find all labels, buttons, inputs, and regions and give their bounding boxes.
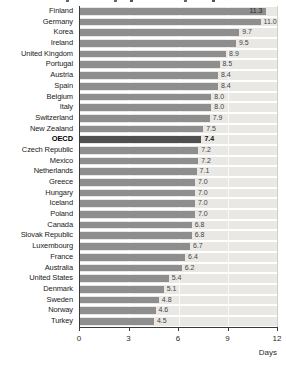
category-label: Denmark xyxy=(0,284,73,295)
value-label: 8.0 xyxy=(214,103,224,112)
bar-row: 8.4 xyxy=(80,81,277,92)
plot-right-border xyxy=(277,6,278,327)
bar xyxy=(80,243,190,250)
category-label: Italy xyxy=(0,102,73,113)
category-label: Netherlands xyxy=(0,166,73,177)
x-tick-label: 12 xyxy=(266,334,286,344)
bar xyxy=(80,190,195,197)
bar-row: 5.4 xyxy=(80,273,277,284)
bar xyxy=(80,297,159,304)
category-label: United States xyxy=(0,273,73,284)
bar xyxy=(80,158,198,165)
category-label: Iceland xyxy=(0,198,73,209)
x-tick-mark xyxy=(178,328,179,331)
x-tick-mark xyxy=(277,328,278,331)
value-label: 6.2 xyxy=(185,264,195,273)
bar xyxy=(80,200,195,207)
value-label: 8.9 xyxy=(229,50,239,59)
bar xyxy=(80,115,210,122)
category-labels: FinlandGermanyKoreaIrelandUnited Kingdom… xyxy=(0,6,73,327)
bar xyxy=(80,61,220,68)
bar xyxy=(80,19,261,26)
bar-chart: FinlandGermanyKoreaIrelandUnited Kingdom… xyxy=(0,0,286,367)
bar xyxy=(80,94,211,101)
bar xyxy=(80,232,192,239)
bar-row: 7.9 xyxy=(80,113,277,124)
value-label: 4.8 xyxy=(162,296,172,305)
bar-row: 4.5 xyxy=(80,316,277,327)
bar xyxy=(80,265,182,272)
category-label: Norway xyxy=(0,305,73,316)
category-label: Slovak Republic xyxy=(0,230,73,241)
category-label: Greece xyxy=(0,177,73,188)
bar xyxy=(80,307,156,314)
bar-row: 8.5 xyxy=(80,59,277,70)
category-label: Switzerland xyxy=(0,113,73,124)
category-label: Korea xyxy=(0,27,73,38)
value-label: 6.7 xyxy=(193,242,203,251)
bar xyxy=(80,8,266,15)
value-label: 7.0 xyxy=(198,210,208,219)
value-label: 7.0 xyxy=(198,189,208,198)
bar-row: 8.9 xyxy=(80,49,277,60)
category-label: Ireland xyxy=(0,38,73,49)
category-label: Portugal xyxy=(0,59,73,70)
bar-row: 11.0 xyxy=(80,17,277,28)
bar-row: 9.7 xyxy=(80,27,277,38)
category-label: Australia xyxy=(0,263,73,274)
category-label: Austria xyxy=(0,70,73,81)
x-tick-label: 6 xyxy=(167,334,189,344)
bar xyxy=(80,254,185,261)
bar xyxy=(80,136,201,143)
bar xyxy=(80,168,197,175)
bar-row: 7.0 xyxy=(80,177,277,188)
bar-row: 8.0 xyxy=(80,92,277,103)
x-tick-label: 3 xyxy=(118,334,140,344)
bar-row: 5.1 xyxy=(80,284,277,295)
category-label: Czech Republic xyxy=(0,145,73,156)
bar xyxy=(80,222,192,229)
bar-row: 4.6 xyxy=(80,305,277,316)
category-label: Luxembourg xyxy=(0,241,73,252)
bar xyxy=(80,318,154,325)
category-label: New Zealand xyxy=(0,124,73,135)
bar-row: 6.2 xyxy=(80,263,277,274)
value-label: 8.0 xyxy=(214,93,224,102)
bar xyxy=(80,147,198,154)
plot-area: 11.311.09.79.58.98.58.48.48.08.07.97.57.… xyxy=(80,6,277,327)
category-label: OECD xyxy=(0,134,73,145)
value-label: 6.4 xyxy=(188,253,198,262)
category-label: Poland xyxy=(0,209,73,220)
value-label: 8.4 xyxy=(221,82,231,91)
bar-row: 7.1 xyxy=(80,166,277,177)
x-tick-label: 9 xyxy=(217,334,239,344)
value-label: 6.8 xyxy=(195,231,205,240)
bar-row: 11.3 xyxy=(80,6,277,17)
bar xyxy=(80,211,195,218)
category-label: Sweden xyxy=(0,295,73,306)
value-label: 7.1 xyxy=(200,167,210,176)
bar-row: 9.5 xyxy=(80,38,277,49)
bar-row: 7.0 xyxy=(80,188,277,199)
bar-row: 7.2 xyxy=(80,156,277,167)
value-label: 11.0 xyxy=(264,18,277,27)
category-label: Hungary xyxy=(0,188,73,199)
value-label: 8.4 xyxy=(221,71,231,80)
category-label: Mexico xyxy=(0,156,73,167)
bar xyxy=(80,286,164,293)
value-label: 9.7 xyxy=(242,28,252,37)
category-label: France xyxy=(0,252,73,263)
bar-row: 7.4 xyxy=(80,134,277,145)
bar xyxy=(80,72,218,79)
value-label: 4.5 xyxy=(157,317,167,326)
bar xyxy=(80,275,169,282)
value-label: 11.3 xyxy=(249,7,265,16)
value-label: 5.4 xyxy=(172,274,182,283)
x-axis-title: Days xyxy=(197,348,277,358)
bar-row: 6.7 xyxy=(80,241,277,252)
x-tick-mark xyxy=(228,328,229,331)
value-label: 8.5 xyxy=(223,60,233,69)
bar-row: 7.2 xyxy=(80,145,277,156)
value-label: 6.8 xyxy=(195,221,205,230)
bar-row: 7.5 xyxy=(80,124,277,135)
